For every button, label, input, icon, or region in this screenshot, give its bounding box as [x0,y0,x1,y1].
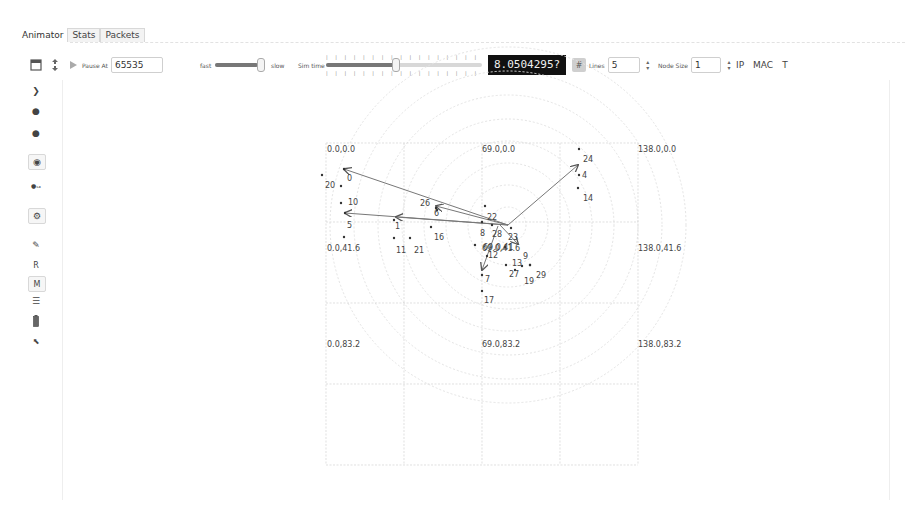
battery-button[interactable] [28,314,44,328]
picture-icon [30,59,42,71]
pause-at-label: Pause At [82,62,108,69]
tab-stats[interactable]: Stats [67,28,100,42]
packet-filter-button[interactable]: ◉ [28,154,46,170]
packet-stats-button[interactable]: ●ₛₐ [28,178,44,192]
slider-ticks-top: | | | | | | | | | | | | | | | | | | | | … [326,54,482,60]
slow-label: slow [271,62,284,69]
list-icon: ☰ [32,296,40,306]
zoom-in-button[interactable]: ● [28,104,44,118]
packets-list-icon: ●ₛₐ [31,182,41,189]
slider-ticks-bottom: | | | | | | | | | | | | | | | | | | | | … [326,70,482,76]
settings-button[interactable]: ⚙ [28,208,46,224]
tab-animator[interactable]: Animator [18,29,67,42]
pause-at-input[interactable]: 65535 [111,57,163,73]
battery-icon [33,315,39,327]
grid-button[interactable]: ☰ [28,294,44,308]
m-button[interactable]: M [28,276,46,292]
node-size-spinner[interactable]: ▴▾ [725,59,733,71]
tab-divider [70,42,905,43]
ip-toggle[interactable]: IP [736,60,744,70]
t-toggle[interactable]: T [782,60,788,70]
lines-input[interactable]: 5 [608,57,640,73]
pen-icon: ✎ [32,240,40,250]
background-image-button[interactable] [30,54,42,76]
play-button[interactable] [68,54,78,76]
animator-toolbar: Pause At 65535 fast slow Sim time | | | … [30,54,910,76]
node-size-input[interactable]: 1 [691,57,721,73]
tab-bar: Animator Stats Packets [18,26,145,42]
m-label: M [34,280,41,289]
lines-label: Lines [589,62,605,69]
zoom-out-icon: ● [32,128,40,138]
fast-label: fast [200,62,211,69]
cursor-button[interactable]: ⬉ [28,334,44,348]
zoom-out-button[interactable]: ● [28,126,44,140]
grid-lines-icon: # [576,61,583,70]
pick-button[interactable]: ✎ [28,238,44,252]
speed-slider[interactable] [215,54,265,76]
gear-icon: ⚙ [33,211,41,221]
node-size-label: Node Size [658,62,688,69]
lines-spinner[interactable]: ▴▾ [644,59,652,71]
cursor-icon: ⬉ [33,337,40,346]
animator-canvas[interactable] [62,80,890,500]
sim-time-slider[interactable]: | | | | | | | | | | | | | | | | | | | | … [326,54,482,76]
expand-button[interactable]: ❯ [28,84,44,98]
sim-time-label: Sim time [298,62,325,69]
play-icon [68,60,78,70]
sim-time-display: 8.0504295? [488,55,566,75]
show-lines-toggle[interactable]: # [572,58,586,72]
r-button[interactable]: R [28,258,44,272]
r-label: R [33,261,39,270]
chevron-right-icon: ❯ [32,86,40,96]
tab-packets[interactable]: Packets [100,28,144,42]
zoom-in-icon: ● [32,106,40,116]
fit-view-button[interactable] [50,54,60,76]
packets-icon: ◉ [33,157,41,167]
mac-toggle[interactable]: MAC [753,60,773,70]
swap-arrows-icon [50,58,60,72]
